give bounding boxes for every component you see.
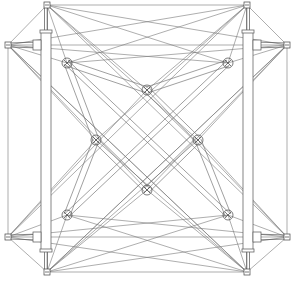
cable-line bbox=[96, 140, 247, 272]
bar-edge bbox=[98, 138, 149, 188]
cable-line bbox=[198, 140, 287, 237]
bar-edge bbox=[94, 142, 145, 192]
arm-sleeve bbox=[33, 40, 41, 50]
right-vertical-strut bbox=[243, 32, 253, 250]
tensegrity-diagram bbox=[0, 0, 294, 287]
strut-cap bbox=[40, 30, 52, 33]
cable-line bbox=[8, 45, 147, 190]
bar-edge bbox=[201, 139, 231, 214]
cable-line bbox=[47, 215, 228, 272]
vertical-struts bbox=[40, 6, 254, 271]
bar-edge bbox=[65, 65, 226, 217]
cable-line bbox=[8, 90, 147, 237]
cable-line bbox=[47, 5, 147, 90]
diagonal-bars bbox=[64, 60, 231, 217]
strut-cap bbox=[40, 249, 52, 252]
bar-edge bbox=[146, 60, 227, 87]
bar-edge bbox=[145, 92, 196, 142]
bar-edge bbox=[64, 139, 93, 214]
cable-line bbox=[67, 215, 247, 272]
arm-sleeve bbox=[253, 232, 261, 242]
cable-line bbox=[8, 140, 96, 237]
diagram-svg bbox=[0, 0, 294, 287]
strut-cap bbox=[242, 249, 254, 252]
left-vertical-strut bbox=[41, 32, 51, 250]
arm-sleeve bbox=[253, 40, 261, 50]
cable-line bbox=[8, 45, 96, 140]
cable-line bbox=[47, 140, 198, 272]
strut-cap bbox=[242, 30, 254, 33]
cable-line bbox=[147, 90, 287, 237]
arm-sleeve bbox=[33, 232, 41, 242]
cable-line bbox=[147, 5, 247, 90]
bar-edge bbox=[145, 138, 196, 188]
bar-edge bbox=[149, 88, 200, 138]
cable-line bbox=[147, 45, 287, 190]
